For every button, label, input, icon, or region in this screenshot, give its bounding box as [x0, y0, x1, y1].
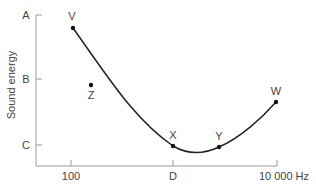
y-tick-label-b: B [22, 73, 29, 85]
point-label-x: X [169, 129, 177, 141]
x-tick-label-d: D [169, 170, 177, 182]
point-y [217, 145, 221, 149]
y-tick-label-c: C [22, 139, 30, 151]
point-label-w: W [271, 85, 282, 97]
point-w [274, 100, 278, 104]
point-label-y: Y [215, 130, 223, 142]
point-x [171, 144, 175, 148]
point-label-z: Z [88, 89, 95, 101]
y-tick-label-a: A [22, 9, 30, 21]
y-axis-label: Sound energy [5, 50, 17, 119]
point-v [71, 26, 75, 30]
chart: A B C Sound energy 100 D 10 000 Hz V Z X… [0, 0, 316, 191]
point-label-v: V [68, 10, 76, 22]
x-tick-label-10000: 10 000 Hz [259, 170, 309, 182]
point-z [89, 83, 93, 87]
x-tick-label-100: 100 [62, 170, 80, 182]
